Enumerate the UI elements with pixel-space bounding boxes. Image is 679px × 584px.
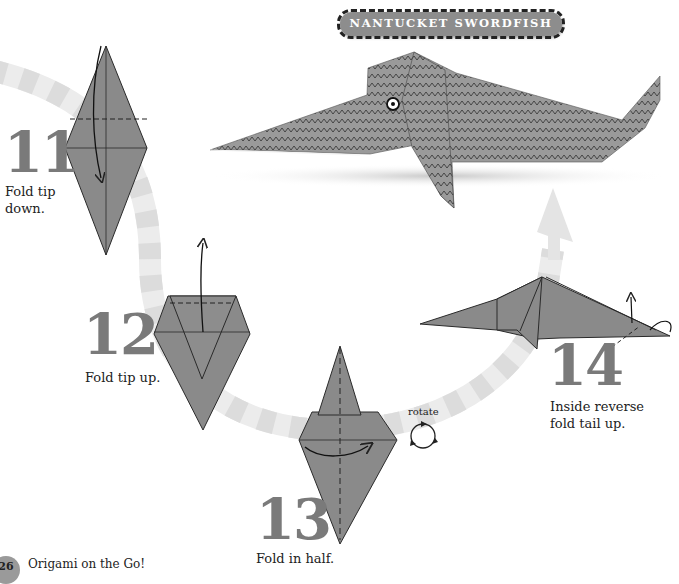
caption-line: down. [5,200,55,217]
step-12-caption: Fold tip up. [85,369,160,386]
step-11-caption: Fold tip down. [5,183,55,217]
title-banner: NANTUCKET SWORDFISH [340,12,562,36]
step-13-caption: Fold in half. [256,550,334,567]
step-14-caption: Inside reverse fold tail up. [550,398,644,432]
caption-line: Inside reverse [550,398,644,415]
caption-line: fold tail up. [550,415,644,432]
caption-line: Fold tip [5,183,55,200]
rotate-label: rotate [408,406,439,417]
book-title: Origami on the Go! [28,557,145,571]
step-14-diagram [420,277,671,349]
step-14-number: 14 [548,337,622,393]
step-12-number: 12 [83,306,157,362]
step-11-number: 11 [4,124,78,180]
banner-title: NANTUCKET SWORDFISH [340,16,562,30]
step-13-number: 13 [256,491,330,547]
